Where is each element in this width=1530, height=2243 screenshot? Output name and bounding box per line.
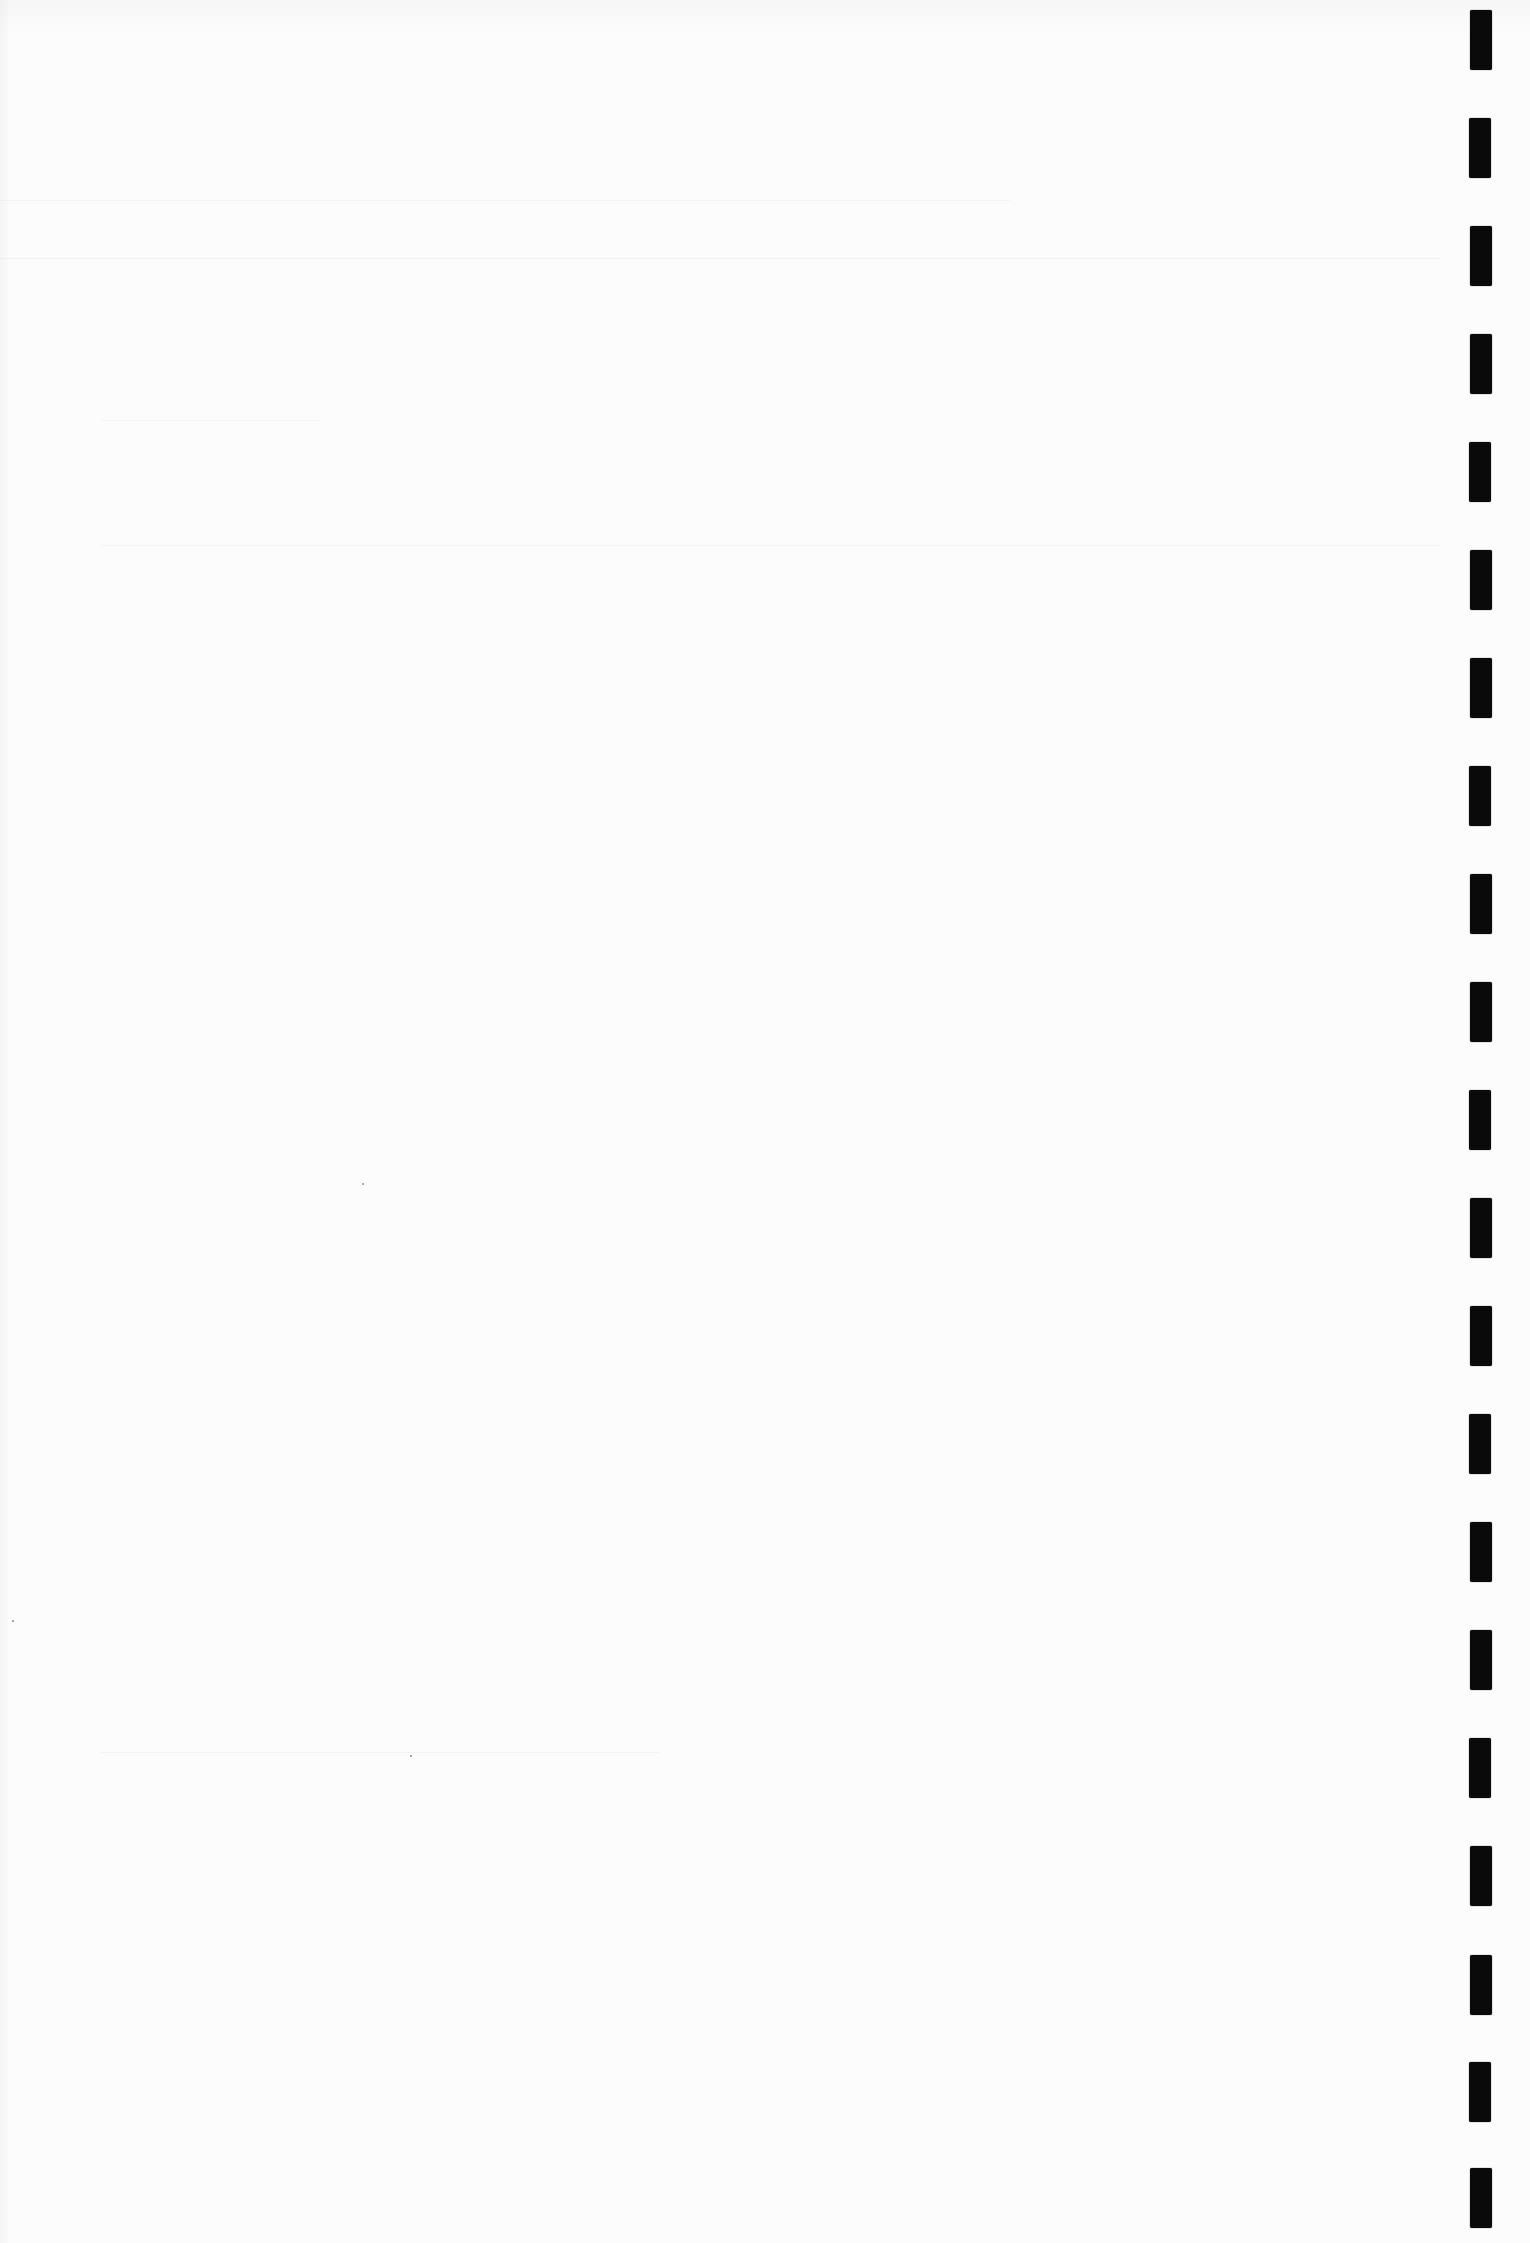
binding-mark xyxy=(1470,1198,1492,1258)
binding-mark xyxy=(1469,118,1491,178)
binding-mark xyxy=(1470,1522,1492,1582)
binding-mark xyxy=(1470,658,1492,718)
dust-speck xyxy=(362,1183,364,1185)
binding-mark xyxy=(1469,1090,1491,1150)
dust-speck xyxy=(410,1755,412,1757)
binding-mark xyxy=(1470,1306,1492,1366)
binding-mark xyxy=(1469,1414,1491,1474)
binding-mark xyxy=(1470,2168,1492,2228)
binding-mark xyxy=(1470,226,1492,286)
binding-mark xyxy=(1469,1738,1491,1798)
bleed-through-line xyxy=(0,258,1440,259)
binding-mark xyxy=(1469,2062,1491,2122)
bleed-through-line xyxy=(0,200,1010,201)
binding-mark xyxy=(1470,10,1492,70)
binding-mark xyxy=(1469,766,1491,826)
binding-mark xyxy=(1470,1630,1492,1690)
scanned-page xyxy=(0,0,1530,2243)
binding-mark xyxy=(1470,334,1492,394)
binding-mark xyxy=(1470,874,1492,934)
bleed-through-line xyxy=(100,545,1440,546)
bleed-through-line xyxy=(100,1752,660,1753)
binding-mark xyxy=(1470,1955,1492,2015)
binding-mark xyxy=(1470,982,1492,1042)
binding-mark xyxy=(1470,1846,1492,1906)
bleed-through-line xyxy=(100,420,320,421)
binding-mark xyxy=(1470,550,1492,610)
dust-speck xyxy=(12,1620,14,1622)
binding-mark xyxy=(1469,442,1491,502)
